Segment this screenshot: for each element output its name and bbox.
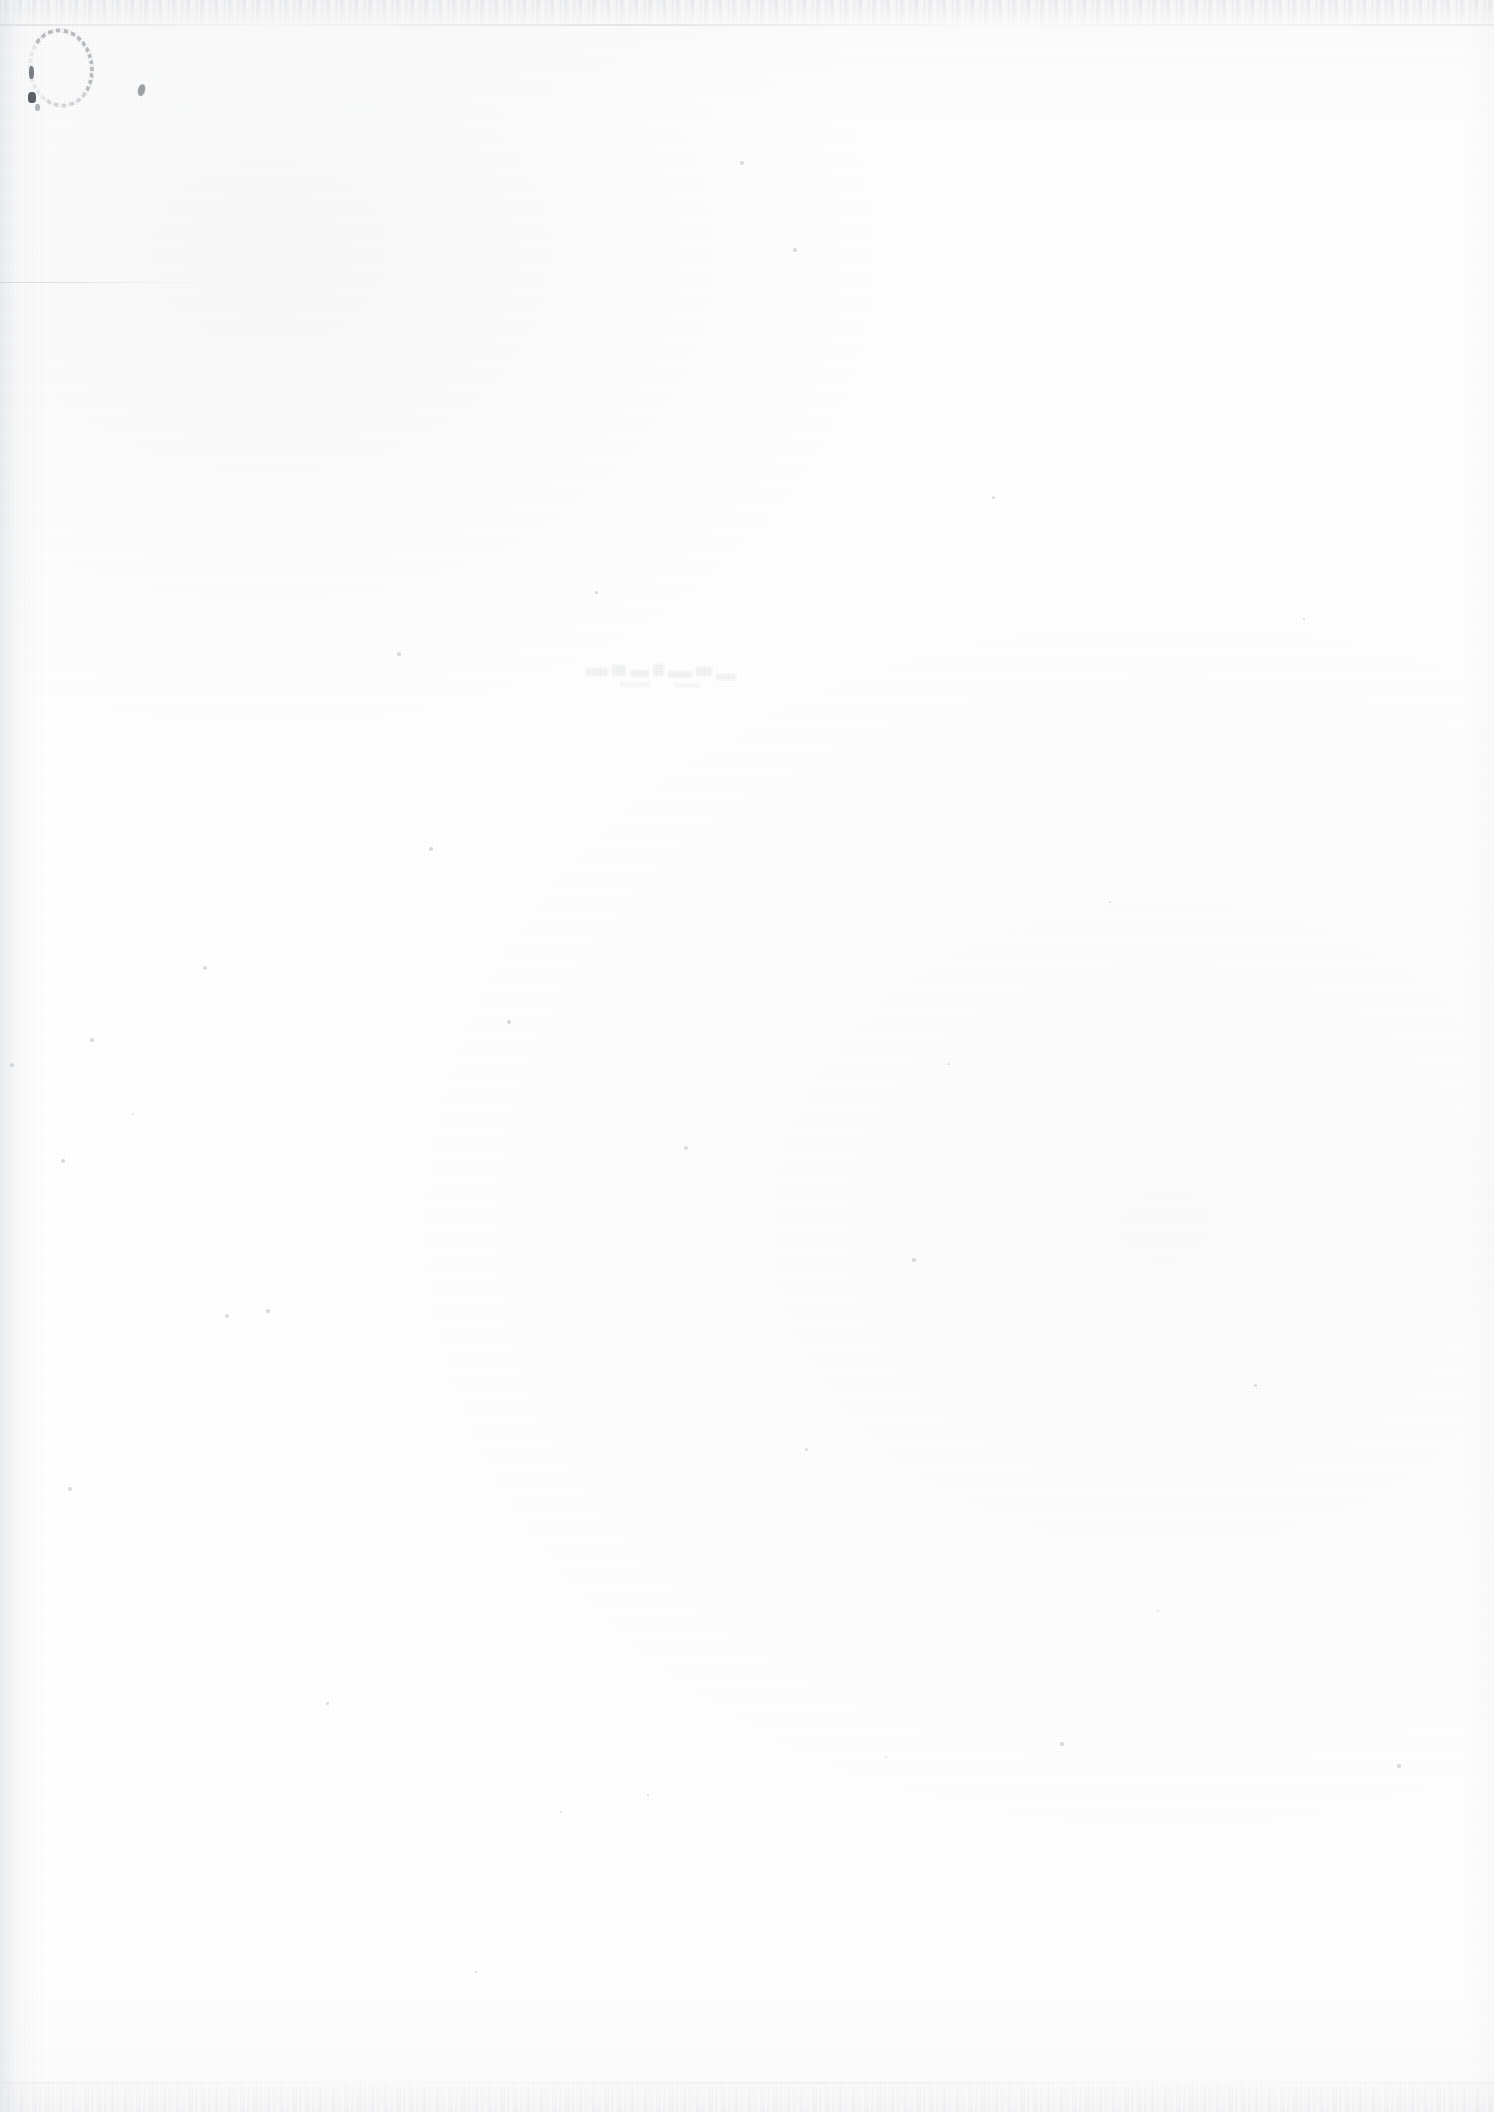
scanned-page bbox=[0, 0, 1494, 2112]
dust-speck bbox=[805, 1448, 808, 1451]
dust-speck bbox=[992, 496, 995, 499]
ghost-glyph bbox=[612, 665, 626, 676]
ink-dot bbox=[29, 66, 34, 79]
ghost-glyph bbox=[630, 670, 649, 677]
scan-edge-top-band bbox=[0, 0, 1494, 26]
scan-edge-left-gradient bbox=[0, 0, 46, 2112]
dust-speck bbox=[61, 1159, 65, 1163]
scan-edge-top-hairline bbox=[0, 24, 1494, 26]
dust-speck bbox=[90, 1038, 93, 1041]
ghost-glyph bbox=[620, 682, 650, 687]
dust-speck bbox=[397, 652, 400, 655]
ghost-glyph bbox=[586, 668, 608, 677]
dust-speck bbox=[429, 847, 433, 851]
dust-speck bbox=[912, 1258, 915, 1261]
dust-speck bbox=[1254, 1384, 1257, 1387]
bleed-through-ghost-text bbox=[584, 660, 740, 702]
scan-edge-right-gradient bbox=[1464, 0, 1494, 2112]
paper-background bbox=[0, 0, 1494, 2112]
ghost-glyph bbox=[653, 664, 664, 676]
faint-horizontal-rule bbox=[0, 282, 206, 283]
dust-speck bbox=[326, 1702, 329, 1705]
ghost-glyph bbox=[696, 667, 712, 676]
ghost-glyph bbox=[674, 683, 700, 688]
dust-speck bbox=[1060, 1742, 1063, 1745]
dust-speck bbox=[1397, 1764, 1400, 1767]
ghost-glyph bbox=[668, 671, 692, 678]
ink-dot bbox=[35, 104, 40, 111]
dust-speck bbox=[793, 248, 797, 252]
dust-speck bbox=[507, 1020, 510, 1023]
dust-speck bbox=[68, 1487, 71, 1490]
dust-speck bbox=[684, 1146, 688, 1150]
ink-oval-mark bbox=[28, 28, 94, 108]
ink-dot bbox=[28, 92, 36, 103]
dust-speck bbox=[10, 1063, 14, 1067]
dust-speck bbox=[595, 591, 598, 594]
dust-speck bbox=[266, 1309, 269, 1312]
ghost-glyph bbox=[716, 674, 736, 680]
scan-edge-bottom-hairline bbox=[0, 2082, 1494, 2084]
